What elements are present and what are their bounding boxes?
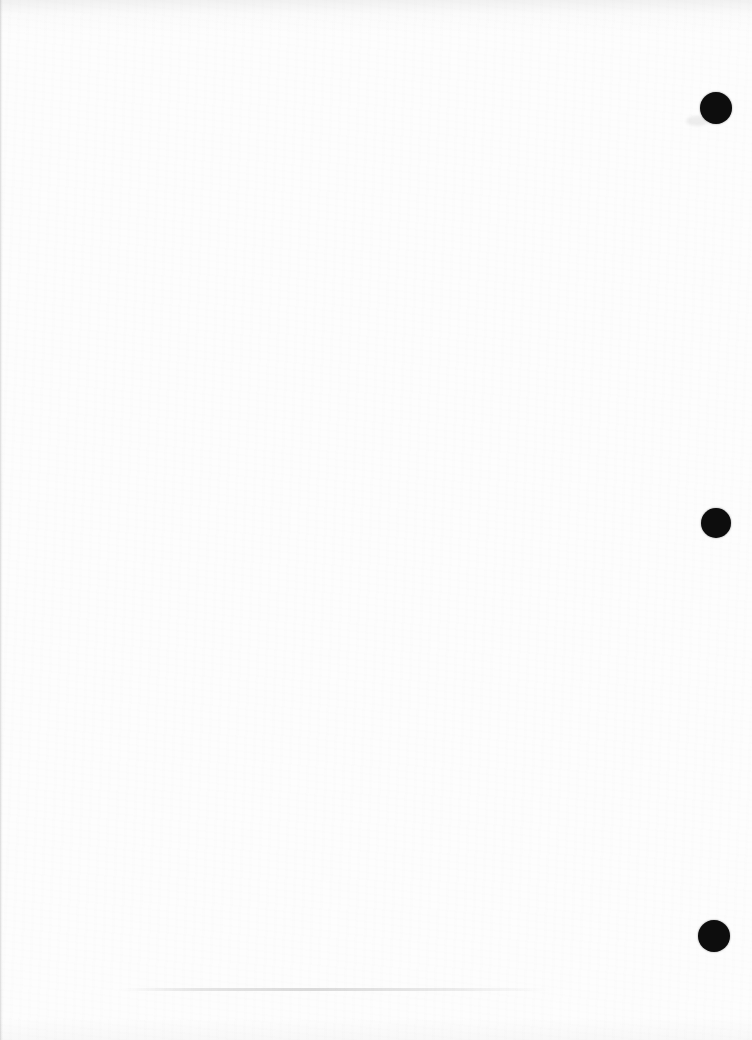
scanned-page [0, 0, 752, 1040]
punch-hole-icon [701, 508, 731, 538]
scan-grain-texture [0, 0, 752, 1040]
punch-hole-icon [700, 92, 732, 124]
punch-hole-icon [698, 920, 730, 952]
scan-smudge-line [120, 988, 550, 991]
scan-edge-left [0, 0, 3, 1040]
